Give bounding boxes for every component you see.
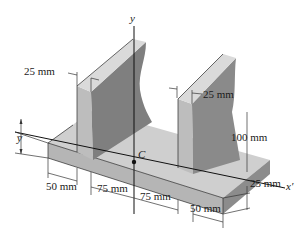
web-height-label: 100 mm [231,131,268,143]
left-web-front-face [77,86,93,160]
composite-section-diagram: y x′ C y̅ 25 mm 25 mm 100 mm 25 mm 50 mm… [0,0,302,228]
ybar-ext-bottom [15,153,48,158]
right-web-thickness-label: 25 mm [203,88,234,100]
right-web-front-face [178,99,193,174]
inner-right-span-label: 75 mm [140,190,171,202]
arrow-icon [20,149,23,154]
lw-leader-1 [68,73,77,75]
centroid-point [132,160,136,164]
flange-thickness-label: 25 mm [250,177,281,189]
x-prime-axis-label: x′ [285,180,294,192]
dim-50-right [193,214,223,222]
arrow-icon [20,119,23,124]
centroid-label: C [138,148,146,160]
left-overhang-label: 50 mm [46,180,77,192]
rw-leader-1 [169,88,177,89]
left-web-thickness-label: 25 mm [24,65,55,77]
right-overhang-label: 50 mm [190,202,221,214]
inner-left-span-label: 75 mm [97,182,128,194]
y-axis-label: y [129,12,135,24]
